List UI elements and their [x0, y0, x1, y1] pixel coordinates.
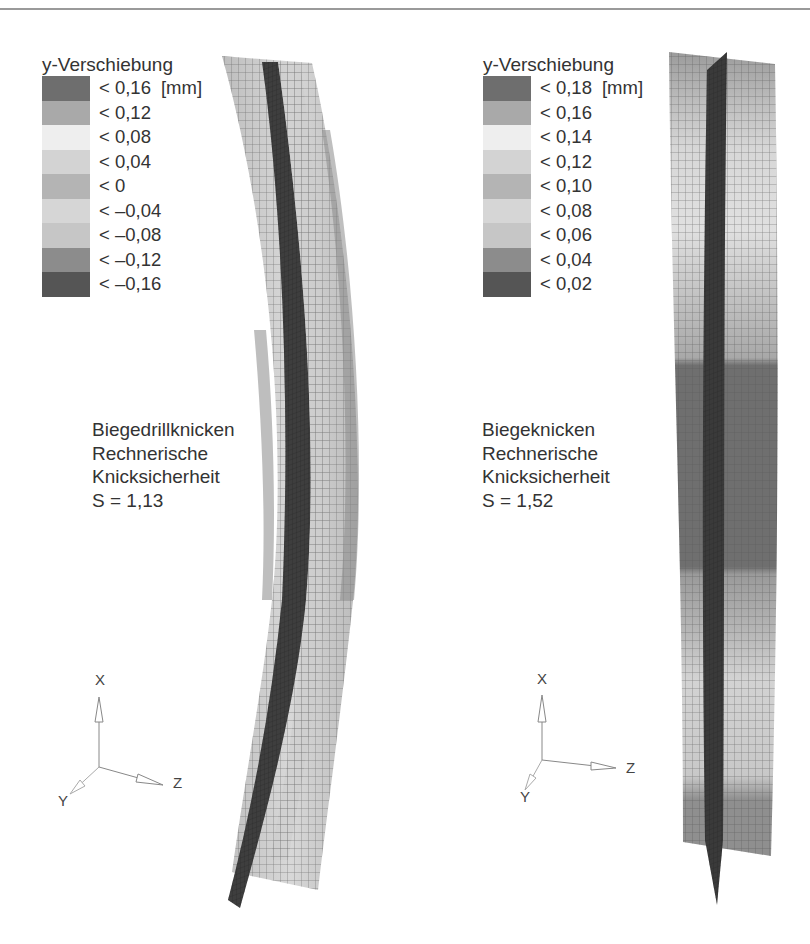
- right-panel-biegeknicken: y-Verschiebung < 0,18 [mm] < 0,16 < 0,14…: [405, 0, 810, 944]
- x-axis-label: X: [537, 670, 547, 687]
- z-axis-label: Z: [173, 774, 182, 791]
- z-axis-arrow-icon: [99, 767, 163, 785]
- z-axis-label: Z: [626, 759, 635, 776]
- x-axis-arrow-icon: [538, 695, 546, 760]
- y-axis-label: Y: [520, 788, 530, 805]
- z-axis-arrow-icon: [542, 760, 616, 770]
- left-axes-triad: X Z Y: [0, 0, 405, 944]
- right-axes-triad: X Z Y: [405, 0, 810, 944]
- left-panel-biegedrillknicken: y-Verschiebung < 0,16 [mm] < 0,12 < 0,08…: [0, 0, 405, 944]
- x-axis-arrow-icon: [95, 697, 103, 767]
- y-axis-label: Y: [58, 792, 68, 809]
- y-axis-arrow-icon: [525, 760, 542, 790]
- y-axis-arrow-icon: [70, 767, 99, 794]
- x-axis-label: X: [95, 671, 105, 688]
